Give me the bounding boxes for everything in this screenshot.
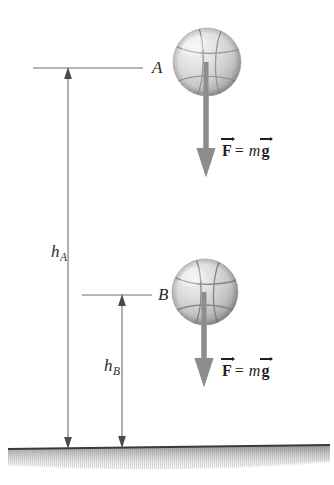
diagram-canvas <box>0 0 334 485</box>
ground <box>8 445 330 471</box>
height-arrow-hb <box>118 294 126 448</box>
height-arrow-ha <box>64 67 72 449</box>
physics-diagram: A B hA hB F=mg F=mg <box>0 0 334 485</box>
